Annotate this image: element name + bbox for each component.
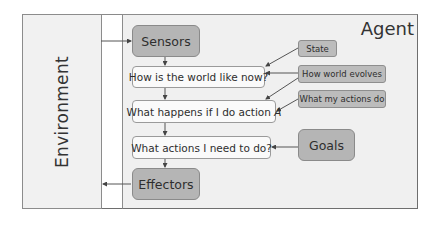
goals-label: Goals (309, 138, 344, 153)
what-my-actions-do-box: What my actions do (298, 90, 386, 108)
effectors-label: Effectors (138, 177, 193, 192)
what-actions-label: What actions I need to do? (131, 142, 272, 154)
sensors-box: Sensors (132, 25, 200, 57)
what-happens-label: What happens if I do action (127, 106, 271, 118)
world-now-box: How is the world like now? (132, 66, 265, 88)
how-world-evolves-label: How world evolves (302, 69, 382, 79)
state-box: State (298, 40, 337, 57)
action-variable: A (274, 106, 281, 118)
how-world-evolves-box: How world evolves (298, 65, 386, 83)
effectors-box: Effectors (132, 168, 200, 200)
world-now-label: How is the world like now? (129, 71, 268, 83)
what-actions-box: What actions I need to do? (132, 136, 271, 159)
sensors-label: Sensors (141, 34, 190, 49)
what-my-actions-do-label: What my actions do (300, 94, 385, 104)
what-happens-box: What happens if I do action A (132, 100, 276, 123)
state-label: State (306, 44, 329, 54)
goals-box: Goals (298, 129, 355, 161)
